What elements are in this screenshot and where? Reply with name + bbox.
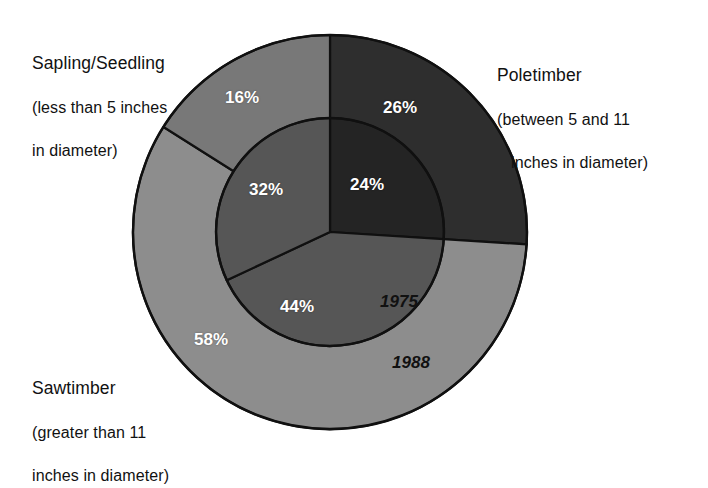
category-label-poletimber: Poletimber (between 5 and 11 inches in d… xyxy=(497,42,648,194)
category-label-sawtimber: Sawtimber (greater than 11 inches in dia… xyxy=(32,355,169,488)
category-sub-poletimber-line2: inches in diameter) xyxy=(497,152,648,173)
value-outer-sapling: 16% xyxy=(225,88,259,108)
value-inner-poletimber: 24% xyxy=(350,175,384,195)
value-inner-sapling: 32% xyxy=(249,180,283,200)
value-outer-poletimber: 26% xyxy=(383,98,417,118)
year-label-1988: 1988 xyxy=(392,353,430,373)
category-label-sapling-seedling: Sapling/Seedling (less than 5 inches in … xyxy=(32,30,167,182)
category-sub-sapling-seedling-line2: in diameter) xyxy=(32,140,167,161)
value-outer-sawtimber: 58% xyxy=(194,330,228,350)
category-title-poletimber: Poletimber xyxy=(497,64,648,87)
category-sub-sapling-seedling-line1: (less than 5 inches xyxy=(32,97,167,118)
category-title-sapling-seedling: Sapling/Seedling xyxy=(32,52,167,75)
category-sub-poletimber-line1: (between 5 and 11 xyxy=(497,109,648,130)
category-sub-sawtimber-line1: (greater than 11 xyxy=(32,422,169,443)
value-inner-sawtimber: 44% xyxy=(280,297,314,317)
year-label-1975: 1975 xyxy=(380,292,418,312)
category-title-sawtimber: Sawtimber xyxy=(32,377,169,400)
category-sub-sawtimber-line2: inches in diameter) xyxy=(32,465,169,486)
